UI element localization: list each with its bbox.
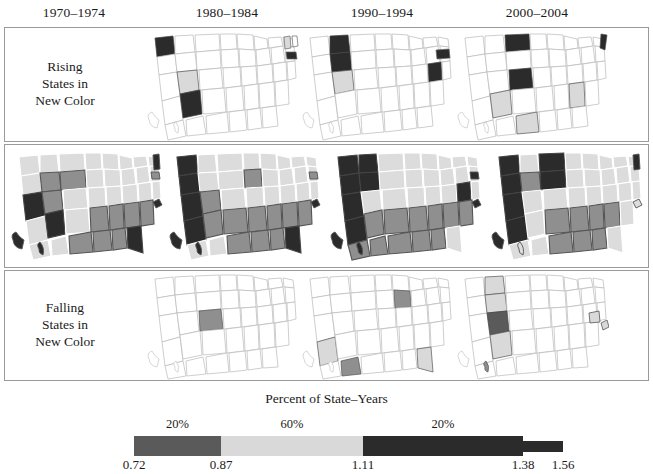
state-nv-top xyxy=(520,172,541,192)
state-nj xyxy=(152,181,161,200)
state-tn xyxy=(244,325,259,351)
legend-segment-4[interactable] xyxy=(523,441,563,452)
state-il xyxy=(279,168,294,186)
state-in xyxy=(602,184,618,204)
state-ia xyxy=(104,169,121,187)
map-rising-1980-1984[interactable] xyxy=(141,28,299,141)
map-falling-1990-1994[interactable] xyxy=(296,271,454,380)
state-nm xyxy=(335,331,357,359)
state-tx xyxy=(496,116,516,136)
state-ga xyxy=(557,349,572,370)
state-nd xyxy=(375,34,392,50)
legend-tick-1-56: 1.56 xyxy=(539,457,587,473)
state-tx-w xyxy=(209,236,227,256)
legend-segment-1[interactable] xyxy=(134,436,221,456)
state-ga xyxy=(270,228,285,250)
state-sd xyxy=(221,49,239,68)
state-ak xyxy=(148,351,159,367)
map-falling-2000-2004[interactable] xyxy=(451,271,609,380)
state-mn xyxy=(547,34,564,50)
state-ak xyxy=(148,112,159,128)
state-nd xyxy=(243,153,260,170)
state-wi xyxy=(409,277,423,291)
state-wv xyxy=(428,62,442,82)
us-map-outline xyxy=(141,271,299,382)
state-nm xyxy=(180,331,202,359)
state-co xyxy=(63,188,88,210)
legend: Percent of State–Years 20% 60% 20% 0.72 … xyxy=(0,381,653,474)
state-nv xyxy=(330,52,352,72)
state-mn xyxy=(421,153,438,170)
state-vt xyxy=(284,36,291,49)
legend-segment-3[interactable] xyxy=(363,436,523,456)
state-tn xyxy=(244,84,259,110)
state-va xyxy=(275,321,289,347)
state-nv xyxy=(330,293,352,313)
state-ak xyxy=(12,232,24,249)
state-il xyxy=(256,48,271,66)
state-fl xyxy=(417,347,433,372)
state-wi xyxy=(119,155,133,170)
state-id xyxy=(175,276,195,295)
state-nv xyxy=(485,52,507,72)
state-or xyxy=(312,295,332,316)
state-nj-sm xyxy=(470,172,479,179)
row-label-line-3: New Color xyxy=(13,92,117,109)
legend-colorbar[interactable] xyxy=(0,436,653,456)
legend-segment-2[interactable] xyxy=(221,436,363,456)
state-ut xyxy=(487,70,509,94)
state-fl xyxy=(127,226,143,253)
state-or xyxy=(21,173,42,195)
map-all-2000-2004[interactable] xyxy=(487,145,645,267)
state-mt xyxy=(350,34,375,52)
state-wa xyxy=(499,155,520,176)
state-ok xyxy=(202,88,226,114)
state-me xyxy=(633,154,640,170)
state-in xyxy=(280,184,296,204)
state-wi xyxy=(277,155,291,170)
map-all-1970-1974[interactable] xyxy=(7,145,165,267)
map-all-1980-1984[interactable] xyxy=(165,145,323,267)
row-label-line-1: Falling xyxy=(13,299,117,316)
state-oh xyxy=(271,46,285,64)
state-wv xyxy=(428,303,442,323)
state-la xyxy=(206,353,229,374)
state-nc xyxy=(124,202,140,228)
state-la xyxy=(516,112,539,134)
state-nd xyxy=(530,34,547,50)
state-or xyxy=(340,173,361,195)
state-ny xyxy=(283,278,294,288)
state-ak xyxy=(458,112,469,128)
map-rising-1990-1994[interactable] xyxy=(296,28,454,141)
state-id xyxy=(175,35,195,54)
state-sd xyxy=(405,169,423,188)
state-ok xyxy=(512,88,536,114)
state-wy xyxy=(218,170,244,190)
state-nj-sm xyxy=(309,172,318,179)
state-ms xyxy=(93,230,112,252)
state-ne xyxy=(88,187,106,208)
state-mn xyxy=(237,275,254,291)
state-mn xyxy=(102,153,119,170)
state-mo xyxy=(586,186,602,206)
map-all-1990-1994[interactable] xyxy=(326,145,484,267)
state-nv-id xyxy=(175,52,197,72)
state-fl xyxy=(446,226,462,253)
state-il xyxy=(256,289,271,307)
map-rising-2000-2004[interactable] xyxy=(451,28,609,141)
state-la xyxy=(206,112,229,134)
state-nj xyxy=(287,302,296,321)
map-falling-1980-1984[interactable] xyxy=(141,271,299,380)
state-ne xyxy=(378,308,396,329)
state-la xyxy=(516,353,539,374)
state-mt xyxy=(195,34,220,52)
state-mn xyxy=(260,153,277,170)
state-nc xyxy=(414,82,430,108)
state-mn xyxy=(237,34,254,50)
state-sd xyxy=(531,290,549,309)
state-ms xyxy=(412,230,431,252)
state-ut xyxy=(177,311,199,335)
state-de xyxy=(472,199,481,208)
state-mo xyxy=(241,66,257,86)
state-va xyxy=(459,200,473,226)
